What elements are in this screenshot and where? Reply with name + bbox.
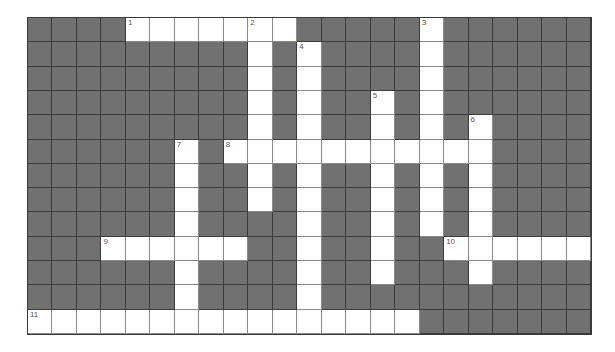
crossword-cell[interactable] xyxy=(371,115,395,139)
crossword-cell[interactable] xyxy=(371,188,395,212)
crossword-cell[interactable] xyxy=(273,310,297,334)
crossword-cell[interactable] xyxy=(420,91,444,115)
blocked-cell xyxy=(224,212,248,236)
crossword-cell[interactable] xyxy=(297,91,321,115)
blocked-cell xyxy=(273,285,297,309)
crossword-cell[interactable] xyxy=(322,140,346,164)
crossword-cell[interactable] xyxy=(150,18,174,42)
crossword-cell[interactable] xyxy=(248,188,272,212)
crossword-cell[interactable]: 2 xyxy=(248,18,272,42)
crossword-cell[interactable] xyxy=(248,91,272,115)
crossword-cell[interactable]: 6 xyxy=(469,115,493,139)
crossword-cell[interactable]: 5 xyxy=(371,91,395,115)
crossword-cell[interactable] xyxy=(371,310,395,334)
crossword-cell[interactable] xyxy=(469,261,493,285)
crossword-cell[interactable]: 11 xyxy=(28,310,52,334)
blocked-cell xyxy=(28,42,52,66)
crossword-cell[interactable] xyxy=(175,212,199,236)
blocked-cell xyxy=(493,115,517,139)
crossword-cell[interactable] xyxy=(420,188,444,212)
crossword-cell[interactable] xyxy=(469,212,493,236)
crossword-cell[interactable] xyxy=(420,140,444,164)
crossword-cell[interactable] xyxy=(469,188,493,212)
crossword-cell[interactable]: 8 xyxy=(224,140,248,164)
crossword-cell[interactable] xyxy=(224,237,248,261)
crossword-cell[interactable] xyxy=(248,310,272,334)
crossword-cell[interactable] xyxy=(444,140,468,164)
crossword-cell[interactable] xyxy=(420,212,444,236)
crossword-cell[interactable] xyxy=(297,212,321,236)
crossword-cell[interactable] xyxy=(273,140,297,164)
crossword-cell[interactable]: 1 xyxy=(126,18,150,42)
blocked-cell xyxy=(518,261,542,285)
blocked-cell xyxy=(493,67,517,91)
blocked-cell xyxy=(199,261,223,285)
crossword-cell[interactable] xyxy=(248,164,272,188)
crossword-cell[interactable] xyxy=(469,140,493,164)
crossword-cell[interactable] xyxy=(199,18,223,42)
crossword-cell[interactable]: 3 xyxy=(420,18,444,42)
crossword-cell[interactable] xyxy=(150,237,174,261)
crossword-cell[interactable] xyxy=(469,237,493,261)
crossword-cell[interactable] xyxy=(420,115,444,139)
crossword-cell[interactable]: 9 xyxy=(101,237,125,261)
blocked-cell xyxy=(77,212,101,236)
crossword-cell[interactable] xyxy=(175,261,199,285)
crossword-cell[interactable] xyxy=(395,310,419,334)
crossword-cell[interactable] xyxy=(175,237,199,261)
crossword-cell[interactable] xyxy=(175,18,199,42)
crossword-cell[interactable] xyxy=(248,67,272,91)
crossword-cell[interactable]: 10 xyxy=(444,237,468,261)
crossword-cell[interactable] xyxy=(248,140,272,164)
crossword-cell[interactable] xyxy=(346,310,370,334)
crossword-cell[interactable] xyxy=(175,164,199,188)
crossword-cell[interactable] xyxy=(297,237,321,261)
crossword-cell[interactable] xyxy=(297,140,321,164)
crossword-cell[interactable] xyxy=(346,140,370,164)
blocked-cell xyxy=(101,140,125,164)
crossword-cell[interactable] xyxy=(297,188,321,212)
crossword-cell[interactable] xyxy=(297,285,321,309)
crossword-cell[interactable] xyxy=(567,237,591,261)
crossword-cell[interactable] xyxy=(126,237,150,261)
crossword-cell[interactable] xyxy=(297,115,321,139)
crossword-cell[interactable] xyxy=(77,310,101,334)
crossword-cell[interactable] xyxy=(420,164,444,188)
crossword-cell[interactable] xyxy=(248,42,272,66)
blocked-cell xyxy=(444,67,468,91)
crossword-cell[interactable] xyxy=(150,310,174,334)
crossword-cell[interactable] xyxy=(101,310,125,334)
crossword-cell[interactable] xyxy=(322,310,346,334)
crossword-cell[interactable] xyxy=(493,237,517,261)
blocked-cell xyxy=(126,285,150,309)
blocked-cell xyxy=(52,237,76,261)
crossword-cell[interactable] xyxy=(469,164,493,188)
crossword-cell[interactable] xyxy=(224,18,248,42)
crossword-cell[interactable] xyxy=(297,67,321,91)
crossword-cell[interactable] xyxy=(273,18,297,42)
crossword-cell[interactable] xyxy=(420,67,444,91)
crossword-cell[interactable] xyxy=(175,285,199,309)
crossword-cell[interactable] xyxy=(52,310,76,334)
crossword-cell[interactable] xyxy=(542,237,566,261)
crossword-cell[interactable] xyxy=(395,140,419,164)
crossword-cell[interactable] xyxy=(199,237,223,261)
crossword-cell[interactable] xyxy=(175,310,199,334)
crossword-cell[interactable]: 7 xyxy=(175,140,199,164)
crossword-cell[interactable] xyxy=(371,140,395,164)
crossword-cell[interactable] xyxy=(175,188,199,212)
crossword-cell[interactable] xyxy=(248,115,272,139)
crossword-cell[interactable] xyxy=(371,261,395,285)
crossword-cell[interactable]: 4 xyxy=(297,42,321,66)
crossword-cell[interactable] xyxy=(297,164,321,188)
crossword-cell[interactable] xyxy=(199,310,223,334)
crossword-cell[interactable] xyxy=(371,212,395,236)
crossword-cell[interactable] xyxy=(420,42,444,66)
crossword-cell[interactable] xyxy=(371,164,395,188)
crossword-cell[interactable] xyxy=(518,237,542,261)
crossword-cell[interactable] xyxy=(371,237,395,261)
crossword-cell[interactable] xyxy=(297,261,321,285)
crossword-cell[interactable] xyxy=(126,310,150,334)
crossword-cell[interactable] xyxy=(297,310,321,334)
crossword-cell[interactable] xyxy=(224,310,248,334)
